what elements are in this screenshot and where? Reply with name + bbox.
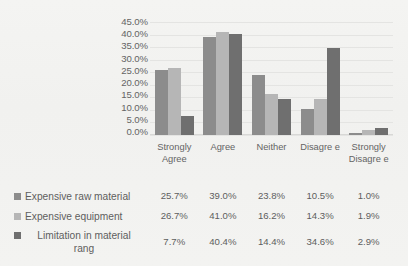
table-cell: 2.9% <box>344 236 393 248</box>
y-axis-tick: 0.0% <box>127 127 148 137</box>
bar-group <box>150 22 199 135</box>
legend-value-cells: 7.7% 40.4% 14.4% 34.6% 2.9% <box>150 226 393 258</box>
y-axis-tick: 30.0% <box>121 54 148 64</box>
y-axis-tick-labels: 45.0% 40.0% 35.0% 30.0% 25.0% 20.0% 15.0… <box>104 17 148 137</box>
table-cell: 23.8% <box>247 190 296 202</box>
y-axis-tick: 15.0% <box>121 90 148 100</box>
legend-row-expensive-equipment: Expensive equipment 26.7% 41.0% 16.2% 14… <box>0 206 408 226</box>
table-cell: 16.2% <box>247 210 296 222</box>
table-cell: 39.0% <box>199 190 248 202</box>
legend-swatch-icon <box>14 213 21 220</box>
bar-group <box>199 22 248 135</box>
bar <box>278 99 291 135</box>
gridline <box>150 135 393 136</box>
bar <box>203 37 216 135</box>
legend-row-expensive-raw-material: Expensive raw material 25.7% 39.0% 23.8%… <box>0 186 408 206</box>
x-axis-label-strongly-agree: Strongly Agree <box>150 142 199 186</box>
y-axis-tick: 10.0% <box>121 103 148 113</box>
table-cell: 40.4% <box>199 236 248 248</box>
y-axis-tick: 45.0% <box>121 17 148 27</box>
legend-row-limitation-in-material-rang: Limitation in materialrang 7.7% 40.4% 14… <box>0 226 408 258</box>
bar-group <box>247 22 296 135</box>
x-axis-label-strongly-disagree: Strongly Disagre e <box>344 142 393 186</box>
bar <box>314 99 327 135</box>
legend-swatch-icon <box>14 193 21 200</box>
legend-label-line1: Limitation in material <box>37 230 130 241</box>
bar-group <box>344 22 393 135</box>
plot-wrapper: 45.0% 40.0% 35.0% 30.0% 25.0% 20.0% 15.0… <box>0 0 408 142</box>
table-cell: 1.0% <box>344 190 393 202</box>
x-axis-label-agree: Agree <box>199 142 248 186</box>
table-cell: 25.7% <box>150 190 199 202</box>
y-axis-tick: 5.0% <box>127 115 148 125</box>
table-cell: 14.3% <box>296 210 345 222</box>
bar-groups <box>150 22 393 135</box>
bar <box>265 94 278 135</box>
legend-key: Expensive equipment <box>0 210 150 223</box>
x-axis-category-labels: Strongly Agree Agree Neither Disagre e S… <box>150 142 393 186</box>
table-cell: 14.4% <box>247 236 296 248</box>
bar <box>327 48 340 135</box>
table-cell: 7.7% <box>150 236 199 248</box>
bar <box>375 128 388 135</box>
bar-group <box>296 22 345 135</box>
bar <box>181 116 194 135</box>
table-cell: 41.0% <box>199 210 248 222</box>
bar <box>155 70 168 135</box>
table-cell: 26.7% <box>150 210 199 222</box>
bar <box>252 75 265 135</box>
table-cell: 34.6% <box>296 236 345 248</box>
y-axis-tick: 40.0% <box>121 29 148 39</box>
legend-key: Limitation in materialrang <box>0 229 150 255</box>
y-axis-tick: 35.0% <box>121 41 148 51</box>
legend-label: Expensive raw material <box>25 190 130 203</box>
x-axis-label-disagree: Disagre e <box>296 142 345 186</box>
plot-area <box>150 22 393 135</box>
bar <box>229 34 242 135</box>
legend-label: Expensive equipment <box>25 210 122 223</box>
legend-data-table: Expensive raw material 25.7% 39.0% 23.8%… <box>0 186 408 266</box>
legend-label-line2: rang <box>74 243 94 254</box>
y-axis-tick: 25.0% <box>121 66 148 76</box>
y-axis-tick: 20.0% <box>121 78 148 88</box>
table-cell: 10.5% <box>296 190 345 202</box>
table-cell: 1.9% <box>344 210 393 222</box>
legend-value-cells: 25.7% 39.0% 23.8% 10.5% 1.0% <box>150 186 393 206</box>
bar <box>168 68 181 135</box>
legend-label: Limitation in materialrang <box>25 229 143 255</box>
legend-swatch-icon <box>14 232 21 239</box>
bar <box>362 130 375 135</box>
bar-chart: 45.0% 40.0% 35.0% 30.0% 25.0% 20.0% 15.0… <box>0 0 408 266</box>
bar <box>301 109 314 135</box>
x-axis-label-neither: Neither <box>247 142 296 186</box>
legend-key: Expensive raw material <box>0 190 150 203</box>
bar <box>349 133 362 136</box>
legend-value-cells: 26.7% 41.0% 16.2% 14.3% 1.9% <box>150 206 393 226</box>
bar <box>216 32 229 135</box>
